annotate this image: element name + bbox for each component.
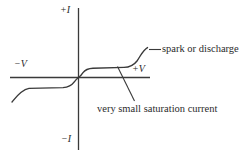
axis-label-negative-voltage: −V bbox=[14, 59, 27, 69]
iv-curve bbox=[12, 48, 148, 102]
axis-label-positive-voltage: +V bbox=[132, 64, 145, 74]
axis-label-positive-current: +I bbox=[60, 5, 70, 15]
figure-canvas bbox=[0, 0, 244, 157]
iv-characteristic-figure: +I −I −V +V spark or discharge very smal… bbox=[0, 0, 244, 157]
axis-label-negative-current: −I bbox=[61, 134, 71, 144]
annotation-spark-or-discharge: spark or discharge bbox=[162, 44, 239, 55]
annotation-saturation-current: very small saturation current bbox=[97, 104, 217, 115]
